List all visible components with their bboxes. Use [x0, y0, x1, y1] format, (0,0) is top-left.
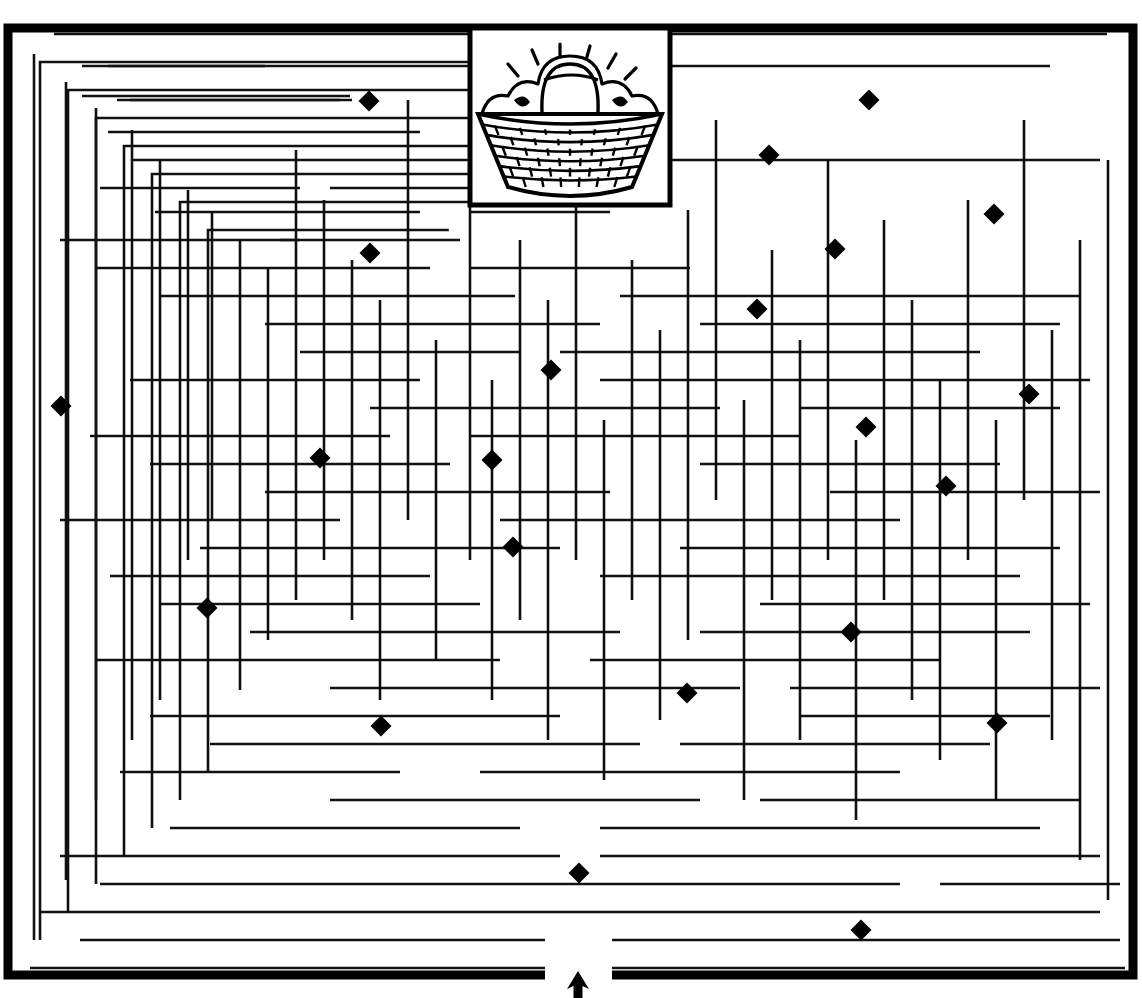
basket-illustration — [470, 28, 670, 205]
basket-weave-tick — [580, 158, 581, 166]
folded-item — [542, 64, 598, 112]
basket-weave-tick — [558, 139, 559, 145]
basket-weave-tick — [559, 158, 560, 166]
basket-weave-tick — [589, 168, 590, 177]
basket-weave-tick — [579, 177, 580, 187]
basket-weave-tick — [550, 168, 551, 177]
basket-weave-tick — [545, 129, 546, 135]
basket-weave-tick — [547, 148, 548, 155]
maze-canvas — [0, 0, 1142, 998]
basket-weave-tick — [581, 139, 582, 145]
basket-weave-tick — [591, 148, 592, 155]
basket-weave-tick — [594, 129, 595, 135]
maze-page: Maze Puzzle basket of laundry entrance b… — [0, 0, 1142, 998]
basket-weave-tick — [561, 177, 562, 187]
